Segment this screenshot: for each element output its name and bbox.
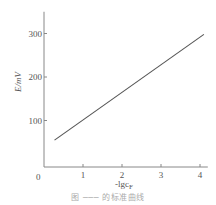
x-tick-label: 4 bbox=[198, 170, 203, 180]
y-axis-label: E/mV bbox=[13, 71, 23, 93]
chart-canvas: 1002003001234 E/mV -lgcF 0 bbox=[0, 0, 216, 190]
origin-label: 0 bbox=[36, 172, 41, 182]
y-tick-label: 200 bbox=[29, 72, 43, 82]
y-tick-label: 100 bbox=[29, 116, 43, 126]
plot-area bbox=[55, 34, 204, 140]
series-line bbox=[55, 34, 204, 140]
x-tick-label: 1 bbox=[81, 170, 86, 180]
x-tick-label: 3 bbox=[159, 170, 164, 180]
y-tick-label: 300 bbox=[29, 29, 43, 39]
figure-caption: 图 ─── 的标准曲线 bbox=[0, 191, 216, 202]
axes: 1002003001234 bbox=[29, 12, 208, 180]
x-axis-label: -lgcF bbox=[115, 179, 133, 190]
